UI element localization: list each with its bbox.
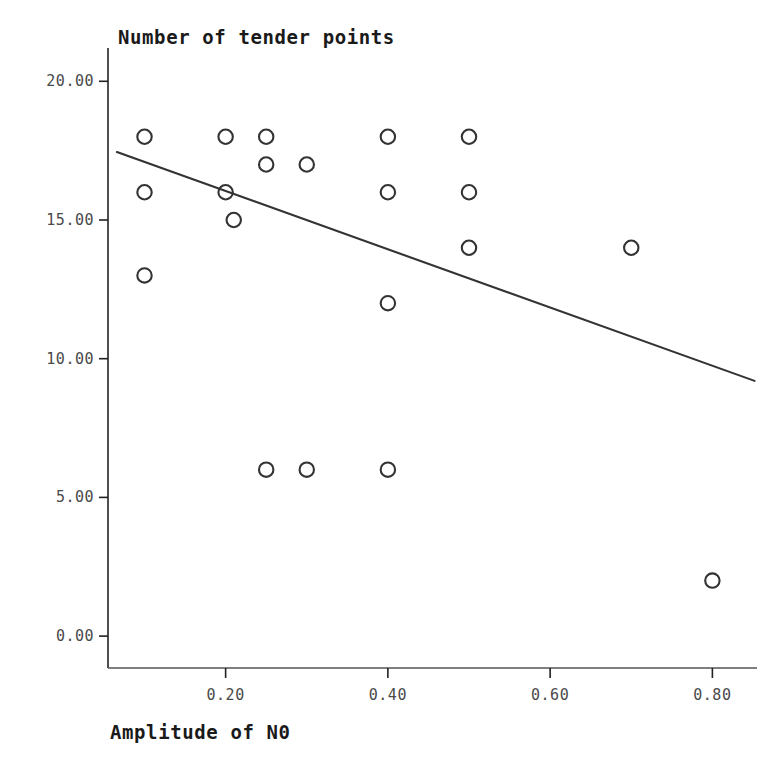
tick-marks bbox=[99, 81, 712, 678]
data-point-marker bbox=[218, 130, 232, 144]
axes bbox=[108, 48, 757, 668]
data-point-marker bbox=[300, 157, 314, 171]
data-point-marker bbox=[462, 185, 476, 199]
y-tick-label: 10.00 bbox=[10, 350, 94, 368]
data-point-marker bbox=[137, 130, 151, 144]
data-point-marker bbox=[705, 573, 719, 587]
fit-line bbox=[117, 152, 755, 381]
x-tick-label: 0.20 bbox=[207, 686, 245, 704]
x-tick-label: 0.80 bbox=[693, 686, 731, 704]
data-point-marker bbox=[381, 462, 395, 476]
data-point-marker bbox=[259, 157, 273, 171]
scatterplot-figure: Number of tender points 0.005.0010.0015.… bbox=[0, 0, 772, 761]
x-tick-label: 0.60 bbox=[531, 686, 569, 704]
y-tick-label: 20.00 bbox=[10, 72, 94, 90]
data-point-marker bbox=[259, 462, 273, 476]
y-tick-label: 15.00 bbox=[10, 211, 94, 229]
data-point-marker bbox=[462, 241, 476, 255]
x-tick-label: 0.40 bbox=[369, 686, 407, 704]
data-point-marker bbox=[381, 296, 395, 310]
y-tick-label: 0.00 bbox=[10, 627, 94, 645]
data-point-marker bbox=[137, 185, 151, 199]
data-point-marker bbox=[624, 241, 638, 255]
regression-line bbox=[117, 152, 755, 381]
data-points bbox=[137, 130, 719, 588]
data-point-marker bbox=[227, 213, 241, 227]
y-tick-label: 5.00 bbox=[10, 488, 94, 506]
data-point-marker bbox=[300, 462, 314, 476]
x-axis-label: Amplitude of N0 bbox=[110, 721, 291, 743]
data-point-marker bbox=[259, 130, 273, 144]
data-point-marker bbox=[381, 130, 395, 144]
data-point-marker bbox=[381, 185, 395, 199]
data-point-marker bbox=[137, 268, 151, 282]
data-point-marker bbox=[462, 130, 476, 144]
plot-canvas bbox=[0, 0, 772, 761]
